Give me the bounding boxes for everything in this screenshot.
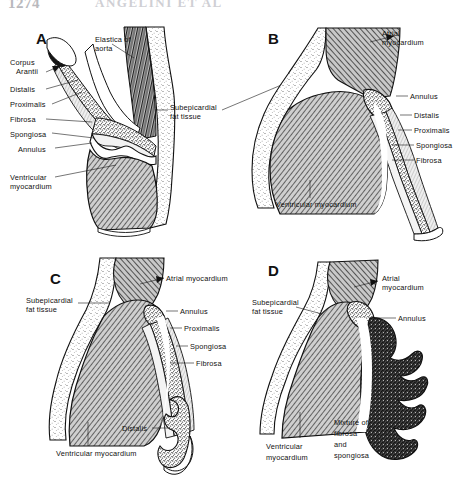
- panel-b-letter: B: [268, 30, 279, 47]
- panel-d-label-atrial-myocardium-2: myocardium: [382, 283, 424, 292]
- panel-a-label-subepicardial-fat-tissue: Subepicardial: [170, 103, 217, 112]
- panel-d-label-mixture-3: and: [334, 440, 347, 449]
- panel-b-label-spongiosa: Spongiosa: [416, 141, 453, 150]
- panel-c-label-fibrosa: Fibrosa: [196, 359, 222, 368]
- panel-b-label-annulus: Annulus: [410, 92, 438, 101]
- panel-d-label-ventricular-myocardium: Ventricular: [266, 442, 303, 451]
- panel-a-label-elastica-of-aorta: Elastica of: [95, 35, 132, 44]
- panel-a-cusp-tip-outline: [47, 38, 76, 66]
- panel-d-label-mixture-4: spongiosa: [334, 451, 370, 460]
- panel-a-leader-spongiosa: [52, 133, 94, 138]
- panel-c: C Atrial myocardium Subepicardial fat ti…: [26, 258, 228, 474]
- panel-d-letter: D: [268, 262, 279, 279]
- panel-c-label-subepicardial-fat-tissue-2: fat tissue: [26, 305, 57, 314]
- panel-a-leader-annulus: [55, 143, 92, 148]
- panel-a-label-fibrosa: Fibrosa: [10, 115, 36, 124]
- panel-c-label-distalis: Distalis: [122, 424, 147, 433]
- panel-a-label-corpus-arantii: Corpus: [10, 58, 35, 67]
- panel-d-label-annulus: Annulus: [398, 314, 426, 323]
- panel-a-label-ventricular-myocardium: Ventricular: [10, 173, 47, 182]
- panel-a-label-distalis: Distalis: [10, 85, 35, 94]
- panel-a-label-elastica-of-aorta-2: aorta: [95, 44, 113, 53]
- panel-a-letter: A: [36, 30, 47, 47]
- panel-a: A Corpus Arantii Distalis Proximalis Fib…: [10, 27, 298, 237]
- panel-a-label-proximalis: Proximalis: [10, 100, 46, 109]
- figure-root: 1274 ANGELINI ET AL: [0, 0, 455, 489]
- panel-a-label-subepicardial-fat-tissue-2: fat tissue: [170, 112, 201, 121]
- panel-d-label-subepicardial-fat-tissue: Subepicardial: [252, 298, 299, 307]
- panel-a-label-spongiosa: Spongiosa: [10, 130, 47, 139]
- panel-a-label-annulus: Annulus: [18, 145, 46, 154]
- panel-d-label-mixture-2: fibrosa: [334, 429, 358, 438]
- panel-b-label-fibrosa: Fibrosa: [416, 156, 442, 165]
- panel-d-label-mixture-1: Mixture of: [334, 418, 369, 427]
- panel-c-label-spongiosa: Spongiosa: [190, 342, 227, 351]
- panel-c-label-atrial-myocardium: Atrial myocardium: [166, 274, 228, 283]
- panel-d-label-ventricular-myocardium-2: myocardium: [266, 453, 308, 462]
- panel-b-label-atrial-myocardium: Atrial: [382, 29, 400, 38]
- panel-a-label-corpus-arantii-2: Arantii: [16, 67, 38, 76]
- panel-d-label-atrial-myocardium: Atrial: [382, 274, 400, 283]
- panel-c-label-proximalis: Proximalis: [184, 324, 220, 333]
- panel-b-label-proximalis: Proximalis: [414, 126, 450, 135]
- panel-c-label-subepicardial-fat-tissue: Subepicardial: [26, 296, 73, 305]
- panel-d-label-subepicardial-fat-tissue-2: fat tissue: [252, 307, 283, 316]
- panel-b-label-atrial-myocardium-2: myocardium: [382, 38, 424, 47]
- panel-c-letter: C: [50, 270, 61, 287]
- panel-b-label-ventricular-myocardium: Ventricular myocardium: [276, 200, 357, 209]
- panel-c-label-annulus: Annulus: [180, 307, 208, 316]
- panel-d: D Atrial myocardium Subepicardial fat ti…: [252, 260, 428, 462]
- panel-b: B Atrial myocardium Annulus Distalis Pro…: [252, 28, 453, 241]
- panel-c-label-ventricular-myocardium: Ventricular myocardium: [56, 449, 137, 458]
- figure-svg: A Corpus Arantii Distalis Proximalis Fib…: [0, 0, 455, 489]
- panel-a-label-ventricular-myocardium-2: myocardium: [10, 182, 52, 191]
- panel-b-label-distalis: Distalis: [414, 111, 439, 120]
